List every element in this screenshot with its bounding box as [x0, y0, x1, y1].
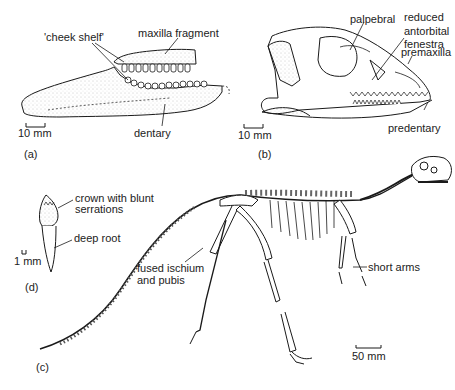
label-dentary: dentary — [134, 127, 171, 139]
scale-label-a: 10 mm — [18, 127, 52, 139]
dentary-drawing — [22, 67, 222, 117]
panel-label-b: (b) — [258, 148, 271, 160]
panel-d-leaders — [54, 200, 73, 248]
panel-label-d: (d) — [25, 281, 38, 293]
label-fused-line2: and pubis — [137, 274, 185, 286]
label-predentary: predentary — [388, 122, 441, 134]
label-short-arms: short arms — [368, 261, 420, 273]
tooth-drawing — [39, 195, 58, 272]
scale-label-d: 1 mm — [14, 255, 42, 267]
label-antorbital-line1: reduced — [404, 11, 444, 23]
panel-label-c: (c) — [36, 361, 49, 373]
scale-bar-b — [244, 124, 263, 128]
scale-label-b: 10 mm — [238, 129, 272, 141]
scale-bar-c — [356, 345, 381, 348]
label-fused-line1: fused ischium — [137, 262, 204, 274]
label-premaxilla: premaxilla — [401, 46, 451, 58]
label-palpebral: palpebral — [350, 13, 395, 25]
panel-label-a: (a) — [24, 148, 37, 160]
label-maxilla-fragment: maxilla fragment — [138, 27, 219, 39]
label-crown-line2: serrations — [75, 203, 123, 215]
maxilla-fragment-drawing — [114, 49, 196, 72]
scale-bar-d — [22, 250, 26, 254]
scale-label-c: 50 mm — [352, 350, 386, 362]
figure-artwork — [0, 0, 455, 390]
label-antorbital-line2: antorbital — [404, 25, 449, 37]
label-cheek-shelf: 'cheek shelf' — [44, 31, 104, 43]
label-deep-root: deep root — [74, 232, 120, 244]
